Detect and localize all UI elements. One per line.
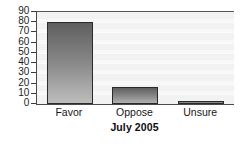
bar-unsure — [178, 101, 224, 104]
x-axis-category-labels: FavorOpposeUnsure — [36, 106, 233, 120]
y-tick-label: 90 — [4, 6, 29, 16]
y-tick-label: 40 — [4, 57, 29, 67]
bar-favor — [47, 22, 93, 104]
y-axis-tick-labels: 0102030405060708090 — [4, 7, 29, 103]
y-tick-label: 10 — [4, 88, 29, 98]
bar-oppose — [112, 87, 158, 104]
plot-area — [36, 11, 234, 105]
y-tick-label: 20 — [4, 78, 29, 88]
y-tick-label: 80 — [4, 16, 29, 26]
bars-layer — [37, 12, 234, 104]
bar-slot — [37, 12, 103, 104]
y-tick-label: 0 — [4, 98, 29, 108]
bar-slot — [168, 12, 234, 104]
x-tick-label: Favor — [36, 106, 102, 119]
bar-chart-figure: 0102030405060708090 FavorOpposeUnsure Ju… — [0, 0, 249, 145]
x-tick-label: Unsure — [167, 106, 233, 119]
bar-slot — [103, 12, 169, 104]
y-tick-label: 30 — [4, 67, 29, 77]
x-tick-label: Oppose — [102, 106, 168, 119]
y-tick-label: 60 — [4, 37, 29, 47]
y-tick-label: 50 — [4, 47, 29, 57]
y-tick-label: 70 — [4, 26, 29, 36]
chart-title: July 2005 — [36, 121, 233, 133]
